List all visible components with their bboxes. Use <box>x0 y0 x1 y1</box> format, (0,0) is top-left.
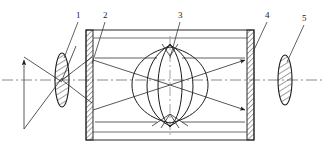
figure-canvas: 1 2 3 4 5 <box>0 0 324 159</box>
label-5: 5 <box>302 14 307 23</box>
output-lens <box>278 55 292 105</box>
label-1: 1 <box>76 11 81 20</box>
chamber-right-wall <box>247 30 254 140</box>
leader-line-1 <box>64 22 78 58</box>
leader-line-4 <box>253 22 267 52</box>
chamber-left-wall <box>86 30 93 140</box>
optical-system-diagram <box>0 0 324 159</box>
label-3: 3 <box>178 11 183 20</box>
label-4: 4 <box>265 11 270 20</box>
label-2: 2 <box>103 11 108 20</box>
input-lens <box>55 53 69 107</box>
chamber-ray-cone <box>93 60 245 110</box>
leader-line-5 <box>287 25 304 62</box>
